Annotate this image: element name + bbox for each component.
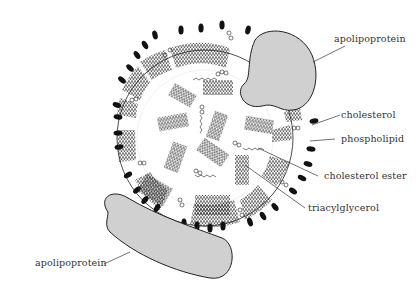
label-triacylglycerol: triacylglycerol (308, 202, 379, 213)
diagram-canvas (0, 0, 420, 300)
label-cholesterol-ester: cholesterol ester (324, 170, 407, 181)
label-apolipoprotein-top: apolipoprotein (334, 33, 406, 44)
lipoprotein-diagram: apolipoprotein cholesterol phospholipid … (0, 0, 420, 300)
label-cholesterol: cholesterol (341, 109, 396, 120)
label-phospholipid: phospholipid (341, 133, 404, 144)
label-apolipoprotein-bottom: apolipoprotein (35, 257, 107, 268)
apolipoprotein-top-shape (240, 31, 315, 110)
